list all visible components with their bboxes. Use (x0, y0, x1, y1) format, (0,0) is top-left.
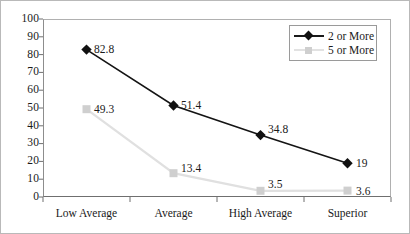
legend-swatch-diamond-icon (294, 30, 324, 42)
x-tick-marks (43, 197, 391, 202)
x-tick-label-low-average: Low Average (43, 206, 130, 226)
data-label-2ormore-average: 51.4 (181, 100, 201, 112)
data-label-2ormore-low-average: 82.8 (94, 44, 114, 56)
x-tick-label-high-average: High Average (217, 206, 304, 226)
data-label-2ormore-high-average: 34.8 (268, 124, 288, 136)
legend-swatch-square-icon (294, 44, 324, 56)
data-label-2ormore-superior: 19 (356, 158, 368, 170)
legend-item-5-or-more: 5 or More (294, 43, 372, 57)
data-label-5ormore-high-average: 3.5 (268, 179, 282, 191)
series-line-2-or-more (87, 50, 348, 164)
data-label-5ormore-low-average: 49.3 (94, 104, 114, 116)
x-axis: Low Average Average High Average Superio… (43, 206, 391, 226)
x-tick-label-average: Average (130, 206, 217, 226)
legend-label-5-or-more: 5 or More (324, 44, 374, 56)
y-tick-marks (39, 19, 43, 197)
x-tick-label-superior: Superior (304, 206, 391, 226)
data-label-5ormore-average: 13.4 (181, 163, 201, 175)
chart-legend: 2 or More 5 or More (289, 25, 377, 61)
legend-item-2-or-more: 2 or More (294, 29, 372, 43)
chart-figure: 100 90 80 70 60 50 40 30 20 10 0 (0, 0, 410, 234)
series-markers-2-or-more (81, 44, 352, 168)
legend-label-2-or-more: 2 or More (324, 30, 374, 42)
data-label-5ormore-superior: 3.6 (356, 186, 370, 198)
